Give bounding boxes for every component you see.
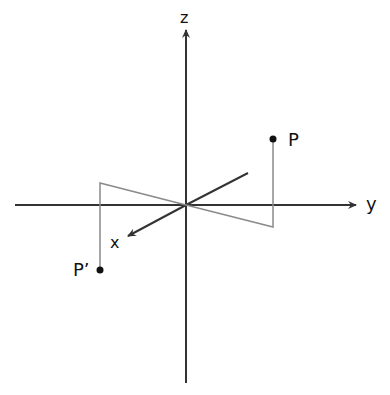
x-axis-label: x (110, 233, 119, 252)
reflection-diagram: z y x P P’ (0, 0, 390, 395)
point-P-prime (97, 267, 104, 274)
y-axis-label: y (366, 193, 377, 214)
point-P-prime-label: P’ (73, 259, 90, 280)
construction-P-prime (100, 183, 186, 270)
x-axis-back (186, 173, 248, 205)
point-P-label: P (288, 129, 299, 150)
z-axis-label: z (180, 8, 188, 27)
point-P (270, 136, 277, 143)
x-axis (128, 205, 186, 236)
